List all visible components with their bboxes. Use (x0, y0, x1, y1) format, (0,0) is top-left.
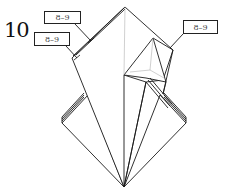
step-number: 10 (4, 20, 29, 41)
reference-box-left: 8–9 (34, 32, 70, 46)
reference-box-right: 8–9 (183, 20, 218, 34)
reference-box-upper-left: 8–9 (44, 11, 81, 24)
origami-diagram: 10 8–9 8–9 8–9 (0, 0, 226, 196)
